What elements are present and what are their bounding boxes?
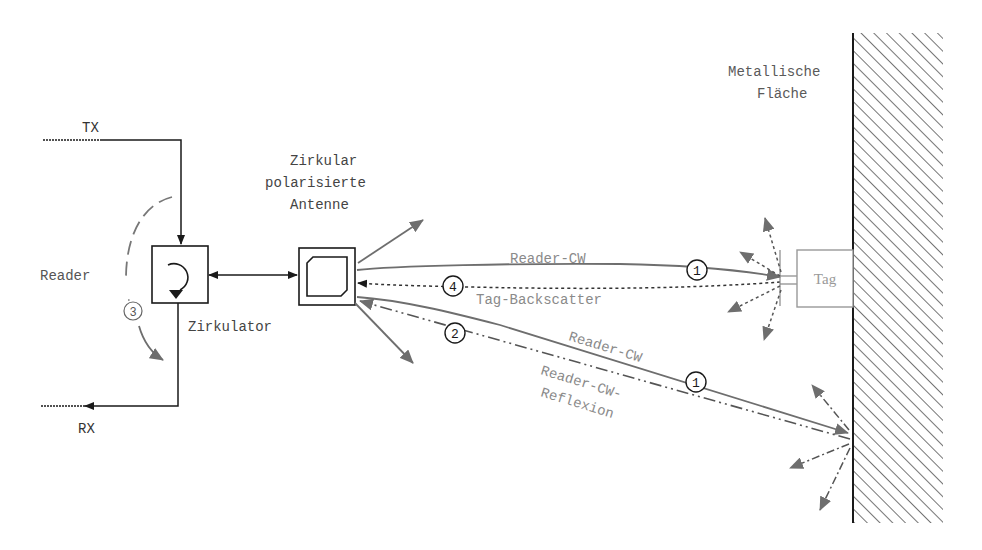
svg-text:2: 2 <box>451 327 459 342</box>
antenna-label-line1: Zirkular <box>290 153 357 169</box>
marker-1-bottom: 1 <box>686 372 706 392</box>
marker-3: 3 <box>124 302 142 320</box>
reader-cw-top-label: Reader-CW <box>510 251 586 267</box>
rfid-backscatter-diagram: Metallische Fläche TX RX Reader 3 Zirkul… <box>0 0 982 550</box>
sidelobe-down-arrow <box>355 303 413 363</box>
metal-surface-label-line1: Metallische <box>728 64 820 80</box>
marker-1-top: 1 <box>687 260 707 280</box>
circulator-block <box>152 246 208 303</box>
tx-line <box>43 140 181 244</box>
antenna-patch-icon <box>307 257 347 296</box>
metal-surface-label-line2: Fläche <box>757 86 807 102</box>
reader-cw-bottom-label: Reader-CW <box>567 329 645 367</box>
tx-label: TX <box>82 120 99 136</box>
antenna-label-line2: polarisierte <box>265 175 366 191</box>
tag-backscatter-path <box>358 282 780 288</box>
antenna-label-line3: Antenne <box>290 197 349 213</box>
marker-4: 4 <box>443 276 463 296</box>
tag-scatter-arrows <box>728 218 781 340</box>
svg-text:3: 3 <box>129 306 136 320</box>
metal-scatter-arrows <box>790 385 850 510</box>
svg-text:1: 1 <box>692 376 700 391</box>
sidelobe-up-arrow <box>358 220 423 263</box>
antenna-block <box>299 248 355 305</box>
circulator-label: Zirkulator <box>188 319 272 335</box>
rx-line <box>40 303 178 406</box>
marker-2: 2 <box>445 323 465 343</box>
tag-backscatter-label: Tag-Backscatter <box>476 292 602 308</box>
metal-surface <box>853 33 943 523</box>
tag-label: Tag <box>814 271 837 287</box>
rx-label: RX <box>78 421 95 437</box>
svg-text:4: 4 <box>449 280 457 295</box>
svg-text:1: 1 <box>693 264 701 279</box>
reader-label: Reader <box>40 268 90 284</box>
